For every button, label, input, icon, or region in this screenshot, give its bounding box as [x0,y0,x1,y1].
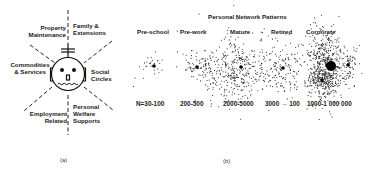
contact-dot [240,119,241,120]
contact-dot [344,45,345,46]
contact-dot [347,73,348,74]
contact-dot [245,68,246,69]
contact-dot [282,49,283,50]
contact-dot [290,82,291,83]
contact-dot [325,35,326,36]
contact-dot [329,75,330,76]
contact-dot [231,61,232,62]
ego-node [281,66,285,70]
contact-dot [336,69,337,70]
contact-dot [307,50,308,51]
contact-dot [294,78,295,79]
contact-dot [210,106,211,107]
contact-dot [309,75,310,76]
contact-dot [304,80,305,81]
contact-dot [352,60,353,61]
contact-dot [290,70,291,71]
contact-dot [319,67,320,68]
contact-dot [322,61,323,62]
contact-dot [325,86,326,87]
contact-dot [227,85,228,86]
contact-dot [327,72,328,73]
contact-dot [224,89,225,90]
contact-dot [228,27,229,28]
contact-dot [278,61,279,62]
contact-dot [329,87,330,88]
contact-dot [320,63,321,64]
contact-dot [341,58,342,59]
contact-dot [280,55,281,56]
contact-dot [316,82,317,83]
contact-dot [211,51,212,52]
contact-dot [262,32,263,33]
contact-dot [323,47,324,48]
contact-dot [318,58,319,59]
ego-node [152,64,156,68]
contact-dot [245,74,246,75]
contact-dot [205,64,206,65]
contact-dot [211,60,212,61]
contact-dot [316,80,317,81]
contact-dot [325,59,326,60]
contact-dot [323,93,324,94]
contact-dot [223,76,224,77]
contact-dot [333,86,334,87]
contact-dot [298,44,299,45]
contact-dot [221,40,222,41]
contact-dot [244,86,245,87]
contact-dot [276,55,277,56]
contact-dot [193,70,194,71]
contact-dot [252,33,253,34]
contact-dot [285,34,286,35]
contact-dot [275,38,276,39]
contact-dot [246,64,247,65]
contact-dot [289,65,290,66]
contact-dot [325,62,326,63]
contact-dot [330,47,331,48]
contact-dot [226,95,227,96]
contact-dot [234,78,235,79]
contact-dot [215,64,216,65]
contact-dot [186,60,187,61]
contact-dot [295,47,296,48]
contact-dot [350,67,351,68]
contact-dot [243,68,244,69]
contact-dot [227,76,228,77]
contact-dot [321,98,322,99]
contact-dot [294,54,295,55]
contact-dot [270,69,271,70]
contact-dot [321,45,322,46]
contact-dot [216,50,217,51]
contact-dot [157,68,158,69]
contact-dot [332,116,333,117]
contact-dot [319,119,320,120]
contact-dot [220,74,221,75]
contact-dot [196,59,197,60]
contact-dot [234,44,235,45]
contact-dot [214,77,215,78]
contact-dot [280,69,281,70]
contact-dot [218,106,219,107]
contact-dot [274,62,275,63]
contact-dot [250,68,251,69]
contact-dot [239,47,240,48]
contact-dot [204,60,205,61]
contact-dot [352,57,353,58]
contact-dot [254,56,255,57]
contact-dot [192,63,193,64]
contact-dot [290,87,291,88]
contact-dot [206,80,207,81]
contact-dot [340,83,341,84]
contact-dot [220,84,221,85]
contact-dot [236,62,237,63]
contact-dot [353,69,354,70]
contact-dot [201,67,202,68]
contact-dot [255,70,256,71]
caption-b: (b) [223,158,230,164]
contact-dot [263,59,264,60]
contact-dot [231,73,232,74]
contact-dot [249,77,250,78]
contact-dot [308,69,309,70]
contact-dot [212,75,213,76]
contact-dot [327,61,328,62]
